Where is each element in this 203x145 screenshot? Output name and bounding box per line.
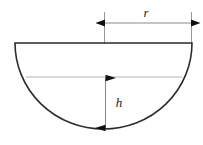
height-label: h <box>116 95 123 110</box>
figure-container: r h <box>0 0 203 145</box>
figure-background <box>0 0 203 145</box>
semicircle-diagram: r h <box>0 0 203 145</box>
